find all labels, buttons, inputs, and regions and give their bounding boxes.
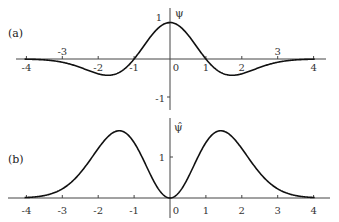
x-tick-label: 2 [239, 62, 245, 73]
x-tick-label: -3 [57, 205, 67, 216]
x-tick-label: 2 [239, 205, 245, 216]
panel-a-ylabel: ψ [175, 7, 184, 20]
panel-b-y-tick-label-1: 1 [159, 152, 165, 163]
x-tick-label: 0 [173, 205, 179, 216]
x-tick-label: 1 [203, 205, 209, 216]
panel-a-y-tick-label-neg1: -1 [155, 93, 165, 104]
x-tick-label: -3 [57, 46, 67, 57]
x-tick-label: -2 [93, 62, 103, 73]
panel-b-label: (b) [8, 153, 24, 166]
x-tick-label: 3 [275, 205, 281, 216]
x-tick-label: 1 [203, 62, 209, 73]
x-tick-label: 4 [310, 62, 316, 73]
x-tick-label: -4 [22, 205, 32, 216]
panel-b: (b) -4-3-2-101234 1 ψ̂ [8, 118, 330, 218]
x-tick-label: -4 [22, 62, 32, 73]
x-tick-label: 0 [173, 62, 179, 73]
panel-a-label: (a) [8, 27, 23, 40]
x-tick-label: 3 [275, 46, 281, 57]
x-tick-label: 4 [310, 205, 316, 216]
panel-a-y-tick-label-1: 1 [156, 12, 162, 23]
panel-a: (a) -4-3-2-101234 1 -1 ψ [8, 7, 326, 110]
figure: (a) -4-3-2-101234 1 -1 ψ (b) -4-3-2-1012… [0, 0, 339, 222]
x-tick-label: -1 [129, 205, 139, 216]
x-tick-label: -2 [93, 205, 103, 216]
panel-b-ylabel: ψ̂ [174, 121, 183, 134]
